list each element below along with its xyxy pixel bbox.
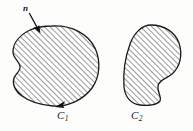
normal-vector-label-text: n	[23, 3, 28, 13]
curve-c1-label: C1	[57, 110, 68, 121]
figure-canvas	[0, 0, 193, 131]
curve-c1-label-subscript: 1	[65, 114, 69, 123]
normal-vector-label: n	[23, 4, 28, 13]
figure-container: n C1 C2	[0, 0, 193, 131]
curve-c2-label: C2	[131, 110, 142, 121]
curve-c2-label-text: C	[131, 109, 138, 121]
curve-c2-label-subscript: 2	[139, 114, 143, 123]
curve-c1-label-text: C	[57, 109, 64, 121]
